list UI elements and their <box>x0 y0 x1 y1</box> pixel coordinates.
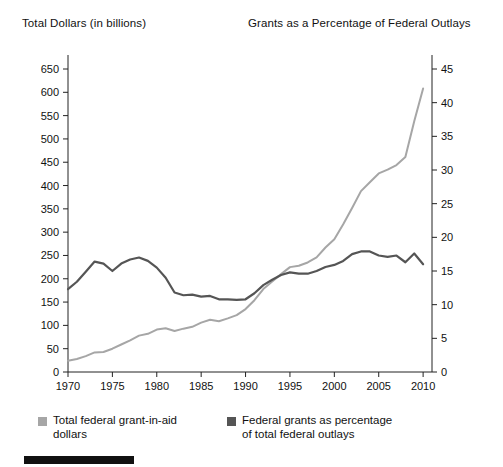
series-line-percent-outlays <box>68 251 423 299</box>
x-axis-tick-label: 2010 <box>411 380 435 392</box>
left-axis-tick-label: 150 <box>41 296 59 308</box>
right-axis-tick-label: 35 <box>441 130 453 142</box>
x-axis-tick-label: 1985 <box>189 380 213 392</box>
right-axis: 051015202530354045 <box>432 55 453 378</box>
right-axis-tick-label: 5 <box>441 332 447 344</box>
left-axis-tick-label: 500 <box>41 133 59 145</box>
left-axis-tick-label: 600 <box>41 86 59 98</box>
x-axis-tick-label: 1980 <box>145 380 169 392</box>
left-axis: 050100150200250300350400450500550600650 <box>41 55 68 378</box>
x-axis: 197019751980198519901995200020052010 <box>56 372 436 392</box>
series-lines <box>68 89 423 361</box>
left-axis-tick-label: 550 <box>41 110 59 122</box>
legend-label-total-dollars: Total federal grant-in-aid dollars <box>53 414 205 441</box>
legend-swatch-total-dollars <box>38 417 47 426</box>
left-axis-tick-label: 50 <box>47 343 59 355</box>
left-axis-tick-label: 350 <box>41 203 59 215</box>
legend-item-percent-outlays: Federal grants as percentage of total fe… <box>227 414 394 441</box>
left-axis-tick-label: 0 <box>53 366 59 378</box>
x-axis-tick-label: 1975 <box>100 380 124 392</box>
left-axis-tick-label: 250 <box>41 249 59 261</box>
left-axis-tick-label: 200 <box>41 273 59 285</box>
x-axis-tick-label: 2005 <box>366 380 390 392</box>
left-axis-tick-label: 650 <box>41 63 59 75</box>
line-chart-plot: 050100150200250300350400450500550600650 … <box>0 0 503 400</box>
x-axis-tick-label: 2000 <box>322 380 346 392</box>
x-axis-tick-label: 1970 <box>56 380 80 392</box>
right-axis-tick-label: 30 <box>441 164 453 176</box>
legend-swatch-percent-outlays <box>227 417 236 426</box>
legend-item-total-dollars: Total federal grant-in-aid dollars <box>38 414 205 441</box>
chart-figure: Total Dollars (in billions) Grants as a … <box>0 0 503 467</box>
x-axis-tick-label: 1995 <box>278 380 302 392</box>
x-axis-tick-label: 1990 <box>233 380 257 392</box>
right-axis-tick-label: 45 <box>441 63 453 75</box>
left-axis-tick-label: 100 <box>41 319 59 331</box>
right-axis-tick-label: 0 <box>441 366 447 378</box>
series-line-total-dollars <box>68 89 423 361</box>
left-axis-tick-label: 300 <box>41 226 59 238</box>
right-axis-tick-label: 25 <box>441 198 453 210</box>
right-axis-tick-label: 10 <box>441 299 453 311</box>
right-axis-tick-label: 15 <box>441 265 453 277</box>
chart-legend: Total federal grant-in-aid dollars Feder… <box>38 414 468 441</box>
right-axis-tick-label: 40 <box>441 97 453 109</box>
legend-label-percent-outlays: Federal grants as percentage of total fe… <box>242 414 394 441</box>
footer-rule <box>24 456 134 464</box>
right-axis-tick-label: 20 <box>441 231 453 243</box>
left-axis-tick-label: 400 <box>41 180 59 192</box>
left-axis-tick-label: 450 <box>41 156 59 168</box>
